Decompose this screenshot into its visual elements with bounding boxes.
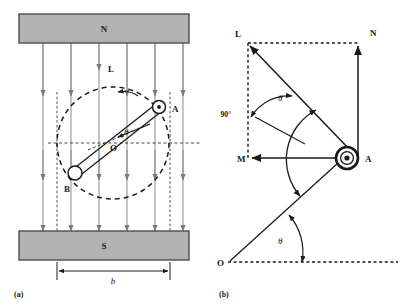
magnet-south-pole: S	[19, 231, 189, 260]
arc-label-l: L	[108, 64, 114, 74]
point-a-label: A	[365, 154, 372, 164]
magnet-north-pole: N	[19, 14, 189, 43]
magnet-south-label: S	[101, 241, 106, 251]
vector-n-label: N	[370, 28, 377, 38]
panel-a-caption: (a)	[14, 290, 24, 299]
vector-l-label: L	[235, 29, 241, 39]
panel-a-angle-label: θ	[124, 127, 129, 137]
physics-figure: N S A B	[0, 0, 409, 308]
panel-b-caption: (b)	[219, 290, 229, 299]
coil-normal-label: O	[110, 143, 117, 153]
width-dimension-label: b	[111, 276, 116, 286]
magnet-north-label: N	[101, 24, 108, 34]
angle-theta-lower-label: θ	[278, 236, 283, 246]
angle-theta-upper-label: θ	[278, 93, 283, 103]
right-angle-label: 90°	[221, 110, 232, 119]
terminal-a-label: A	[172, 104, 179, 114]
vector-m-label: M	[237, 154, 246, 164]
point-o-label: O	[217, 258, 224, 268]
terminal-b-label: B	[64, 184, 70, 194]
